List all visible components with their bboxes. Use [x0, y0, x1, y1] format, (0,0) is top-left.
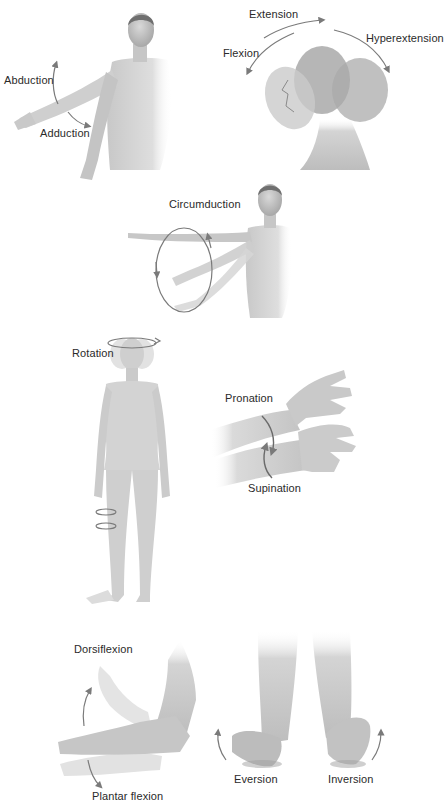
rotation-figure: [86, 338, 170, 604]
label-eversion: Eversion: [234, 773, 278, 785]
female-neck: [126, 368, 138, 382]
female-torso: [104, 381, 160, 470]
eversion-arrow: [218, 732, 226, 760]
neck-base: [300, 118, 370, 170]
label-circumduction: Circumduction: [169, 198, 241, 210]
inversion-arrow: [372, 732, 381, 760]
label-plantar-flexion: Plantar flexion: [92, 790, 163, 802]
label-rotation: Rotation: [72, 347, 114, 359]
abduction-arrow: [53, 64, 58, 104]
label-inversion: Inversion: [328, 773, 374, 785]
foot-plantarflexed-ghost: [60, 752, 162, 776]
shoulder-abduction-adduction-figure: [14, 13, 172, 180]
dorsiflexion-arrow: [83, 690, 90, 726]
everted-foot-shadow: [242, 760, 282, 768]
female-left-leg: [106, 470, 132, 602]
label-extension: Extension: [249, 8, 298, 20]
arm-horizontal: [128, 232, 252, 242]
inverted-foot-shadow: [330, 760, 366, 768]
forearm-pronation-supination-figure: [210, 370, 356, 488]
ankle-dorsiflexion-plantarflexion-figure: [58, 640, 196, 786]
rotated-foot-ghost: [86, 590, 114, 604]
adduction-arrow: [68, 112, 88, 126]
label-adduction: Adduction: [40, 127, 90, 139]
label-supination: Supination: [248, 482, 301, 494]
male-neck-circumduction: [264, 214, 276, 228]
female-right-leg: [132, 470, 158, 602]
label-abduction: Abduction: [4, 74, 54, 86]
label-hyperextension: Hyperextension: [366, 32, 444, 44]
male-torso: [107, 58, 172, 170]
hand-supinated: [298, 425, 356, 472]
label-pronation: Pronation: [225, 392, 273, 404]
foot-eversion-inversion-figure: [218, 630, 381, 768]
label-dorsiflexion: Dorsiflexion: [74, 643, 133, 655]
male-torso-circumduction: [246, 225, 292, 318]
female-head: [120, 338, 144, 370]
diagram-canvas: [0, 0, 446, 807]
hand-pronated: [286, 370, 352, 426]
left-lower-leg: [258, 630, 298, 744]
label-flexion: Flexion: [223, 47, 259, 59]
foot-neutral: [58, 716, 190, 755]
extension-arrow: [264, 20, 322, 38]
foot-dorsiflexed-ghost: [98, 666, 152, 730]
